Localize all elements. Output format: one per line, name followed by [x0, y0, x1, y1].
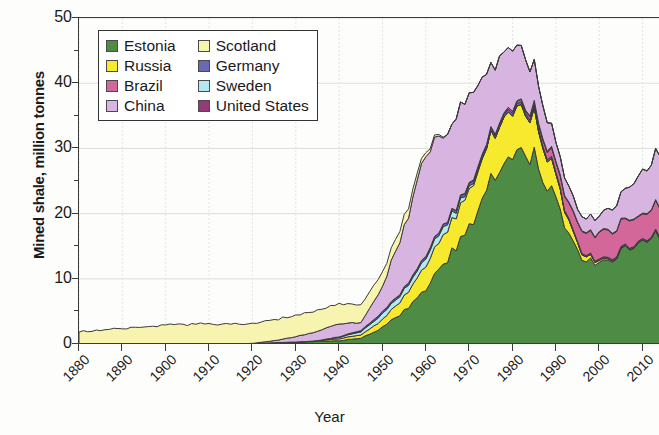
y-tick-label: 30	[42, 139, 72, 155]
legend-label: China	[124, 96, 165, 115]
legend-label: Russia	[124, 56, 171, 75]
legend-swatch-icon	[106, 100, 118, 112]
x-tick	[295, 343, 296, 351]
y-tick-label: 50	[42, 9, 72, 25]
x-tick	[165, 343, 166, 351]
x-tick	[382, 343, 383, 351]
legend-label: United States	[216, 96, 309, 115]
x-tick	[121, 343, 122, 351]
y-tick-label: 40	[42, 74, 72, 90]
shale-production-chart: Mined shale, million tonnes 01020304050 …	[0, 0, 659, 435]
y-tick-label: 10	[42, 270, 72, 286]
x-tick-label: 1890	[89, 352, 136, 399]
legend-item[interactable]: Brazil	[106, 76, 176, 95]
legend-item[interactable]: Russia	[106, 56, 176, 75]
x-tick	[338, 343, 339, 351]
x-tick-label: 1930	[262, 352, 309, 399]
legend-label: Germany	[216, 56, 280, 75]
legend-item[interactable]: Scotland	[198, 36, 309, 55]
x-tick-label: 1950	[349, 352, 396, 399]
legend-item[interactable]: Estonia	[106, 36, 176, 55]
x-axis-title: Year	[0, 408, 659, 425]
x-tick-label: 2000	[566, 352, 613, 399]
x-tick-label: 1990	[522, 352, 569, 399]
x-tick-label: 1910	[175, 352, 222, 399]
x-tick-label: 1920	[219, 352, 266, 399]
legend-label: Estonia	[124, 36, 176, 55]
legend-swatch-icon	[198, 40, 210, 52]
legend-swatch-icon	[198, 100, 210, 112]
x-tick-label: 1960	[392, 352, 439, 399]
x-tick	[642, 343, 643, 351]
x-tick	[251, 343, 252, 351]
legend-swatch-icon	[198, 60, 210, 72]
x-tick-label: 1980	[479, 352, 526, 399]
legend-swatch-icon	[106, 80, 118, 92]
y-tick-label: 20	[42, 205, 72, 221]
legend-label: Brazil	[124, 76, 163, 95]
y-tick-label: 0	[42, 335, 72, 351]
x-tick	[598, 343, 599, 351]
x-tick-label: 1970	[435, 352, 482, 399]
x-tick	[555, 343, 556, 351]
legend-swatch-icon	[106, 60, 118, 72]
x-tick	[208, 343, 209, 351]
legend-item[interactable]: China	[106, 96, 176, 115]
legend-item[interactable]: Germany	[198, 56, 309, 75]
x-tick-label: 1900	[132, 352, 179, 399]
legend-item[interactable]: United States	[198, 96, 309, 115]
legend-label: Sweden	[216, 76, 272, 95]
legend-swatch-icon	[106, 40, 118, 52]
legend-item[interactable]: Sweden	[198, 76, 309, 95]
x-tick	[512, 343, 513, 351]
x-tick	[468, 343, 469, 351]
legend-swatch-icon	[198, 80, 210, 92]
x-tick-label: 2010	[609, 352, 656, 399]
legend: EstoniaScotlandRussiaGermanyBrazilSweden…	[98, 30, 318, 121]
legend-label: Scotland	[216, 36, 276, 55]
x-tick	[78, 343, 79, 351]
x-tick-label: 1940	[305, 352, 352, 399]
x-tick	[425, 343, 426, 351]
